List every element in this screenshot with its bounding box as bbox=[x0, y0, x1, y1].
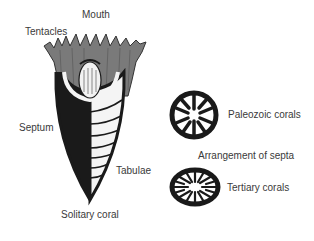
label-mouth: Mouth bbox=[82, 9, 110, 21]
label-septum: Septum bbox=[19, 122, 53, 134]
paleozoic-coral-cross-section bbox=[172, 93, 216, 137]
corallite-cone bbox=[56, 60, 124, 200]
title-arrangement-of-septa: Arrangement of septa bbox=[198, 150, 294, 162]
label-tabulae: Tabulae bbox=[116, 165, 151, 177]
label-tentacles: Tentacles bbox=[25, 26, 67, 38]
label-tertiary-corals: Tertiary corals bbox=[227, 182, 289, 194]
tertiary-coral-cross-section bbox=[172, 170, 218, 204]
label-paleozoic-corals: Paleozoic corals bbox=[228, 109, 301, 121]
caption-solitary-coral: Solitary coral bbox=[61, 209, 119, 221]
